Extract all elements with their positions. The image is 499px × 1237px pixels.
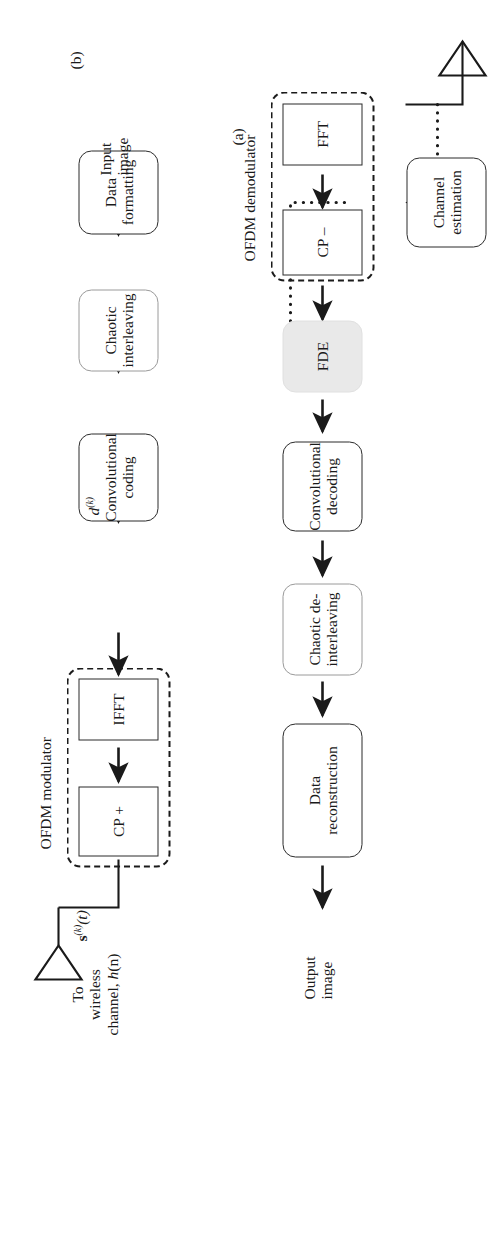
label-ofdm-demodulator: OFDM demodulator xyxy=(240,134,258,261)
block-data-reconstruction[interactable]: Data reconstruction xyxy=(282,723,362,857)
label-to-wireless-channel: To wireless channel, h(n) xyxy=(68,919,120,1069)
figure-canvas: Data formatting Chaotic interleaving Con… xyxy=(0,0,499,1237)
block-chaotic-interleaving[interactable]: Chaotic interleaving xyxy=(78,289,158,371)
input-image-line2: image xyxy=(113,137,130,175)
block-label-line1: Chaotic de- xyxy=(305,593,322,665)
output-image-line2: image xyxy=(317,961,334,999)
block-ifft[interactable]: IFFT xyxy=(78,678,158,740)
block-fft[interactable]: FFT xyxy=(282,103,362,165)
block-label-line1: CP – xyxy=(313,223,330,261)
block-label-line2: decoding xyxy=(322,458,339,515)
block-label-line2: estimation xyxy=(446,170,463,235)
block-label-line1: Chaotic xyxy=(101,306,118,354)
input-image-line1: Input xyxy=(96,142,113,175)
signal-label-d: d(k) xyxy=(84,497,102,515)
diagram-stage: Data formatting Chaotic interleaving Con… xyxy=(0,0,499,1237)
channel-note-line2: wireless xyxy=(85,969,102,1020)
label-ofdm-modulator: OFDM modulator xyxy=(36,737,54,849)
signal-d-superscript: (k) xyxy=(83,497,94,508)
channel-note-h: h xyxy=(103,971,120,979)
label-input-image: Input image xyxy=(96,137,131,175)
block-cp-remove[interactable]: CP – xyxy=(282,209,362,275)
block-label-line1: Channel xyxy=(429,176,446,228)
channel-note-line3: channel, xyxy=(103,983,120,1035)
label-output-image: Output image xyxy=(300,956,335,999)
panel-label-b: (b) xyxy=(66,51,84,69)
antenna-icon-rx xyxy=(405,41,485,104)
block-cp-add[interactable]: CP + xyxy=(78,786,158,856)
block-label-line1: Convolutional xyxy=(101,433,118,522)
block-label-line1: FFT xyxy=(313,117,330,152)
block-label-line2: reconstruction xyxy=(322,746,339,835)
signal-d-base: d xyxy=(84,507,101,515)
block-chaotic-deinterleaving[interactable]: Chaotic de- interleaving xyxy=(282,583,362,675)
output-image-line1: Output xyxy=(300,956,317,999)
block-label-line2: interleaving xyxy=(322,592,339,666)
block-label-line2: coding xyxy=(118,456,135,498)
block-label-line1: Convolutional xyxy=(305,442,322,531)
block-label-line1: FDE xyxy=(313,337,330,374)
block-convolutional-decoding[interactable]: Convolutional decoding xyxy=(282,441,362,531)
block-label-line2: interleaving xyxy=(118,293,135,367)
channel-note-line1: To xyxy=(68,986,85,1002)
channel-note-n: (n) xyxy=(103,953,120,971)
block-label-line1: IFFT xyxy=(109,689,126,729)
block-label-line1: Data xyxy=(305,775,322,804)
block-label-line1: Data xyxy=(101,177,118,206)
block-channel-estimation[interactable]: Channel estimation xyxy=(406,157,486,247)
block-label-line1: CP + xyxy=(109,802,126,841)
block-fde[interactable]: FDE xyxy=(282,320,362,392)
